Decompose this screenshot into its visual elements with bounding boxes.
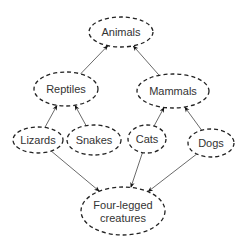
- node-dogs: Dogs: [188, 129, 234, 157]
- node-label-dogs: Dogs: [198, 137, 224, 149]
- edge-snakes-to-reptiles: [75, 105, 86, 125]
- edge-lizards-to-four_legged: [51, 151, 99, 191]
- edges-group: [45, 46, 202, 192]
- edge-lizards-to-reptiles: [45, 105, 57, 127]
- node-snakes: Snakes: [67, 125, 121, 155]
- node-lizards: Lizards: [13, 127, 63, 153]
- node-label-lizards: Lizards: [20, 134, 56, 146]
- edge-cats-to-four_legged: [131, 153, 143, 188]
- node-label-mammals: Mammals: [149, 85, 197, 97]
- node-label-four_legged: creatures: [100, 212, 146, 224]
- node-reptiles: Reptiles: [34, 72, 98, 106]
- node-label-cats: Cats: [136, 133, 159, 145]
- edge-dogs-to-mammals: [185, 107, 202, 130]
- concept-diagram: AnimalsReptilesMammalsLizardsSnakesCatsD…: [0, 0, 248, 243]
- edge-cats-to-mammals: [154, 107, 164, 126]
- edge-mammals-to-animals: [133, 46, 159, 75]
- node-label-four_legged: Four-legged: [93, 199, 152, 211]
- node-label-snakes: Snakes: [76, 134, 113, 146]
- node-cats: Cats: [128, 125, 166, 153]
- nodes-group: AnimalsReptilesMammalsLizardsSnakesCatsD…: [13, 17, 234, 235]
- node-label-animals: Animals: [101, 26, 141, 38]
- node-animals: Animals: [89, 17, 153, 47]
- node-label-reptiles: Reptiles: [46, 83, 86, 95]
- node-four_legged: Four-leggedcreatures: [81, 187, 165, 235]
- edge-reptiles-to-animals: [81, 46, 108, 74]
- edge-dogs-to-four_legged: [148, 154, 197, 192]
- node-mammals: Mammals: [137, 74, 209, 108]
